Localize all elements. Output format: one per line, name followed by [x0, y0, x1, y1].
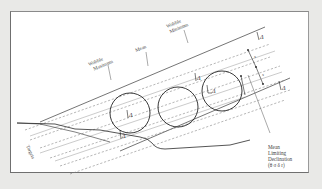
- delta-symbol: Δ: [121, 133, 126, 139]
- mean-pointer: [146, 52, 148, 66]
- delta-symbol: Δ: [128, 112, 133, 118]
- lower-envelope-line: [120, 78, 290, 151]
- delta-symbol: Δ: [196, 75, 201, 81]
- dimension-dots: [240, 49, 264, 85]
- label-mean: Mean: [135, 44, 148, 53]
- label-mean-limiting-declination: Mean Limiting Declination (θ σ δ r): [268, 144, 293, 169]
- delta-symbol: Δ: [211, 88, 216, 94]
- upper-envelope-line: [40, 27, 265, 122]
- declination-pointer: [248, 75, 270, 133]
- delta-symbol: Δ: [259, 34, 264, 40]
- label-wobble-minimum: Wobble Minimum: [166, 16, 190, 34]
- dashed-track-lines: [25, 44, 290, 174]
- mean-track-lines: [30, 51, 282, 161]
- wobble-max-pointer: [108, 65, 111, 80]
- label-targets: Targets: [25, 144, 36, 159]
- label-wobble-maximum: Wobble Maximum: [88, 53, 114, 72]
- svg-text:(θ σ δ r): (θ σ δ r): [268, 162, 285, 169]
- wobble-min-pointer: [184, 30, 188, 43]
- spacing-symbol: s: [254, 54, 256, 59]
- spacing-symbol: s: [262, 72, 264, 77]
- wobble-diagram: Wobble Maximum Mean Wobble Minimum Targe…: [0, 0, 322, 189]
- delta-symbol: Δ: [281, 85, 286, 91]
- svg-text:Mean: Mean: [135, 44, 148, 53]
- svg-text:Targets: Targets: [25, 144, 36, 159]
